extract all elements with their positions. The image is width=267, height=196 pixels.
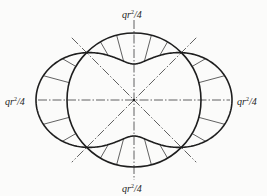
moment-diagram: qr2/4 qr2/4 qr2/4 qr2/4 bbox=[0, 0, 267, 196]
hatch-line bbox=[43, 76, 69, 83]
label-left: qr2/4 bbox=[5, 94, 25, 107]
diagram-canvas bbox=[0, 0, 267, 196]
hatch-line bbox=[63, 134, 76, 142]
label-right: qr2/4 bbox=[237, 94, 257, 107]
label-bottom-base: qr bbox=[122, 183, 131, 194]
hatch-line bbox=[199, 117, 225, 124]
label-right-tail: /4 bbox=[249, 96, 257, 107]
label-bottom-tail: /4 bbox=[134, 183, 142, 194]
label-bottom: qr2/4 bbox=[122, 181, 142, 194]
hatch-line bbox=[144, 35, 151, 61]
label-right-base: qr bbox=[237, 96, 246, 107]
hatch-line bbox=[144, 139, 151, 165]
center-point bbox=[133, 99, 136, 102]
label-top-tail: /4 bbox=[134, 9, 142, 20]
hatch-line bbox=[117, 35, 124, 61]
hatch-line bbox=[192, 59, 205, 67]
label-left-tail: /4 bbox=[17, 96, 25, 107]
hatch-line bbox=[43, 117, 69, 124]
label-left-base: qr bbox=[5, 96, 14, 107]
hatch-line bbox=[192, 134, 205, 142]
hatch-line bbox=[117, 139, 124, 165]
label-top: qr2/4 bbox=[122, 7, 142, 20]
hatch-line bbox=[63, 59, 76, 67]
hatch-line bbox=[199, 76, 225, 83]
label-top-base: qr bbox=[122, 9, 131, 20]
